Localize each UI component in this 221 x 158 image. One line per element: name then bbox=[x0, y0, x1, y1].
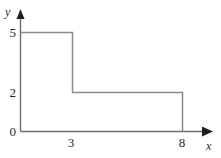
origin-label: 0 bbox=[4, 125, 16, 138]
x-tick-label-8: 8 bbox=[174, 136, 190, 149]
x-axis-label: x bbox=[206, 140, 211, 152]
step-boundary-path bbox=[21, 33, 183, 132]
y-axis-label: y bbox=[5, 6, 10, 18]
y-tick-label-2: 2 bbox=[4, 86, 16, 99]
step-graph-plot bbox=[0, 0, 221, 158]
arrow-up-icon bbox=[17, 9, 25, 19]
arrow-right-icon bbox=[202, 127, 213, 137]
x-tick-label-3: 3 bbox=[63, 136, 79, 149]
figure-container: y x 5 2 0 3 8 bbox=[0, 0, 221, 158]
y-tick-label-5: 5 bbox=[4, 26, 16, 39]
